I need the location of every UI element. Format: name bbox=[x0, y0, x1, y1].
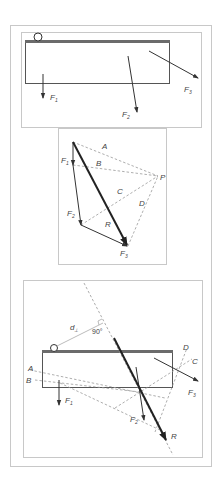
label-c: C bbox=[117, 187, 123, 196]
label-c: C bbox=[192, 357, 198, 366]
string-b-ext bbox=[60, 383, 160, 430]
panel-bottom: d⊥ 90° A B C D R F1 F2 F3 bbox=[24, 281, 203, 458]
ray-d bbox=[128, 176, 158, 246]
rigid-body-top-edge bbox=[42, 350, 173, 353]
ray-c bbox=[81, 176, 158, 225]
label-90-degrees: 90° bbox=[92, 328, 103, 335]
label-p: P bbox=[160, 173, 166, 182]
polygon-f3-arrow bbox=[81, 225, 127, 246]
label-b: B bbox=[96, 159, 102, 168]
rigid-body-top-edge bbox=[25, 40, 170, 43]
label-a: A bbox=[27, 364, 33, 373]
panel-middle: A B C D P R F1 F2 F3 bbox=[59, 129, 167, 265]
pivot-icon bbox=[34, 33, 42, 41]
label-f3: F3 bbox=[188, 388, 196, 398]
label-f2: F2 bbox=[122, 110, 130, 120]
label-d-perp: d⊥ bbox=[70, 323, 78, 333]
label-b: B bbox=[26, 376, 32, 385]
label-r: R bbox=[171, 432, 177, 441]
label-a: A bbox=[101, 142, 107, 151]
rigid-body bbox=[26, 42, 170, 84]
label-d: D bbox=[183, 343, 189, 352]
label-f2: F2 bbox=[130, 415, 138, 425]
label-f2: F2 bbox=[67, 209, 75, 219]
label-f1: F1 bbox=[65, 396, 73, 406]
label-f3: F3 bbox=[184, 85, 192, 95]
label-f1: F1 bbox=[50, 93, 58, 103]
outer-frame bbox=[11, 26, 212, 467]
label-d: D bbox=[139, 199, 145, 208]
label-r: R bbox=[105, 220, 111, 229]
force-diagram-figure: F1 F2 F3 A B C D P R F1 F2 F3 d⊥ bbox=[0, 0, 222, 489]
pivot-icon bbox=[51, 345, 58, 352]
label-f3: F3 bbox=[120, 249, 128, 259]
label-f1: F1 bbox=[61, 156, 69, 166]
panel-top: F1 F2 F3 bbox=[22, 33, 202, 128]
rigid-body bbox=[43, 352, 173, 388]
panel-middle-frame bbox=[59, 129, 167, 265]
